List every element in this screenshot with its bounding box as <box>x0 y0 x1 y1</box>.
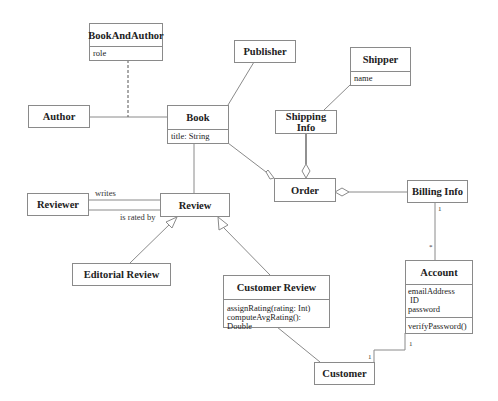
aggregation-diamond-billing <box>335 188 349 196</box>
class-customer[interactable]: Customer <box>314 362 375 385</box>
class-name: Author <box>29 106 89 127</box>
class-customer-review[interactable]: Customer Review assignRating(rating: Int… <box>223 275 330 328</box>
attribute-role: role <box>90 46 162 60</box>
account-customer-association <box>374 333 405 362</box>
class-publisher[interactable]: Publisher <box>234 40 296 63</box>
class-order[interactable]: Order <box>274 178 336 202</box>
attribute-name: name <box>351 71 410 85</box>
class-book[interactable]: Book title: String <box>167 105 229 144</box>
customer-review-generalization <box>224 228 270 275</box>
is-rated-by-label: is rated by <box>120 212 155 222</box>
editorial-review-generalization <box>130 222 172 263</box>
class-name: Reviewer <box>28 194 88 215</box>
book-publisher-association <box>228 62 254 105</box>
account-customer-customer-multiplicity: 1 <box>368 353 372 361</box>
account-customer-account-multiplicity: 1 <box>409 340 413 348</box>
generalization-arrow-customer <box>218 217 228 230</box>
class-author[interactable]: Author <box>28 105 90 128</box>
class-name: Book <box>168 106 228 129</box>
class-name: BookAndAuthor <box>90 24 162 46</box>
attribute-password: password <box>408 305 470 314</box>
class-name: Review <box>161 194 229 216</box>
book-order-aggregation <box>228 143 266 172</box>
class-name: Shipping Info <box>276 111 336 133</box>
class-name: Customer Review <box>224 276 329 299</box>
class-name: Publisher <box>235 41 295 62</box>
class-name: Customer <box>315 363 374 384</box>
class-editorial-review[interactable]: Editorial Review <box>72 263 171 286</box>
class-review[interactable]: Review <box>160 193 230 217</box>
class-name: Billing Info <box>408 181 467 202</box>
operation-verify-password: verifyPassword() <box>408 322 470 331</box>
attribute-title: title: String <box>168 129 228 143</box>
class-book-and-author[interactable]: BookAndAuthor role <box>89 23 163 61</box>
class-account[interactable]: Account emailAddress ID password verifyP… <box>405 260 473 334</box>
aggregation-diamond-shipping <box>302 164 310 178</box>
class-billing-info[interactable]: Billing Info <box>407 180 468 203</box>
class-name: Account <box>406 261 472 284</box>
class-name: Editorial Review <box>73 264 170 285</box>
account-side-multiplicity: * <box>429 243 433 251</box>
operation-compute-avg-rating: computeAvgRating(): Double <box>227 313 326 331</box>
writes-label: writes <box>95 188 116 198</box>
billing-side-multiplicity: 1 <box>438 205 442 213</box>
class-reviewer[interactable]: Reviewer <box>27 193 89 216</box>
class-name: Order <box>275 179 335 201</box>
class-shipping-info[interactable]: Shipping Info <box>275 110 337 134</box>
class-name: Shipper <box>351 48 410 71</box>
shipper-shippinginfo-association <box>324 85 350 110</box>
aggregation-diamond-book-order <box>266 170 274 179</box>
class-shipper[interactable]: Shipper name <box>350 47 411 86</box>
